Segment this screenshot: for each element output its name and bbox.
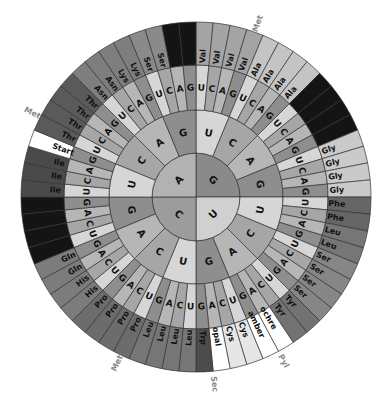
third-base-label-GGA: A: [299, 177, 310, 185]
amino-acid-label-UUU: Phe: [328, 199, 346, 209]
amino-acid-label-UGG: Trp: [198, 330, 208, 345]
third-base-label-CUU: U: [187, 301, 195, 311]
amino-acid-label-GGG: Gly: [329, 185, 345, 195]
amino-acid-label-GUU: Val: [198, 49, 208, 64]
third-base-label-UGA: A: [208, 300, 216, 311]
met-label-top: Met: [251, 14, 265, 33]
third-base-label-AGG: G: [187, 82, 195, 92]
pyl-label: Pyl: [276, 353, 291, 370]
codon-rings: [21, 22, 371, 372]
amino-acid-label-AUU: Ile: [49, 185, 61, 195]
sec-label: Sec: [209, 376, 220, 393]
met-label-bottom: Met: [109, 353, 125, 373]
third-base-label-AUU: U: [81, 188, 91, 196]
genetic-code-wheel: GUUValCValAValGValCUAlaCAlaAAlaGAlaAUCAG…: [0, 0, 383, 400]
third-base-label-CGG: G: [81, 198, 91, 206]
third-base-label-UGG: G: [197, 301, 205, 311]
third-base-label-GGG: G: [300, 188, 310, 196]
amino-acid-label-AUC: Ile: [50, 171, 63, 182]
third-base-label-GUU: U: [197, 82, 205, 92]
amino-acid-label-CUU: Leu: [184, 329, 194, 346]
third-base-label-CGA: A: [82, 209, 93, 217]
third-base-label-UUU: U: [300, 198, 310, 206]
third-base-label-AGA: A: [176, 83, 184, 94]
